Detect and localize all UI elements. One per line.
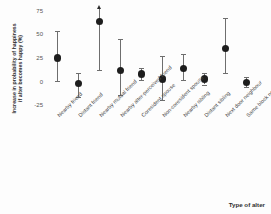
- x-axis-tick-label: Nearby mutual friend: [98, 78, 138, 118]
- chart-figure: Increase in probability of happiness if …: [0, 0, 271, 214]
- x-axis-ticks: Nearby friendDistant friendNearby mutual…: [0, 0, 271, 214]
- x-axis-title: Type of alter: [229, 201, 265, 208]
- x-axis-tick-label: Next door neighbour: [224, 79, 263, 118]
